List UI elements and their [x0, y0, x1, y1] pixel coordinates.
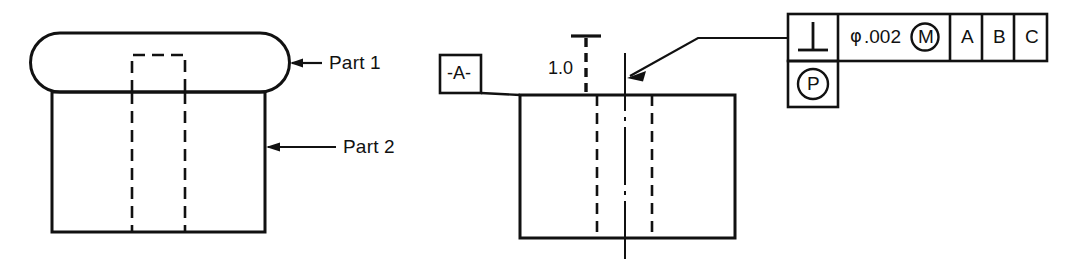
datum-reference-a: A [961, 27, 974, 46]
part1-outline [31, 33, 290, 92]
mmc-modifier-letter: M [918, 27, 934, 46]
right-view-body-outline [520, 95, 735, 238]
part2-outline [52, 92, 265, 232]
technical-drawing-canvas: Part 1 Part 2 -A- 1.0 φ .002 M A B C P [0, 0, 1067, 263]
part2-label: Part 2 [343, 137, 395, 156]
right-view-group [440, 36, 788, 262]
engineering-drawing-svg [0, 0, 1067, 263]
tolerance-value: .002 [864, 27, 901, 46]
datum-reference-c: C [1025, 27, 1039, 46]
tolerance-diameter-symbol: φ [850, 27, 862, 45]
left-view-group [31, 33, 336, 232]
datum-feature-label: -A- [447, 64, 471, 82]
part1-hidden-fastener-outline [132, 55, 185, 92]
projected-tolerance-zone-letter: P [807, 74, 820, 93]
part2-arrowhead-icon [266, 143, 280, 152]
fcf-leader-line [630, 38, 788, 76]
datum-leader-line [481, 93, 520, 95]
projected-zone-dimension-label: 1.0 [548, 59, 573, 77]
datum-reference-b: B [993, 27, 1006, 46]
part1-arrowhead-icon [290, 59, 303, 68]
part1-label: Part 1 [329, 53, 381, 72]
